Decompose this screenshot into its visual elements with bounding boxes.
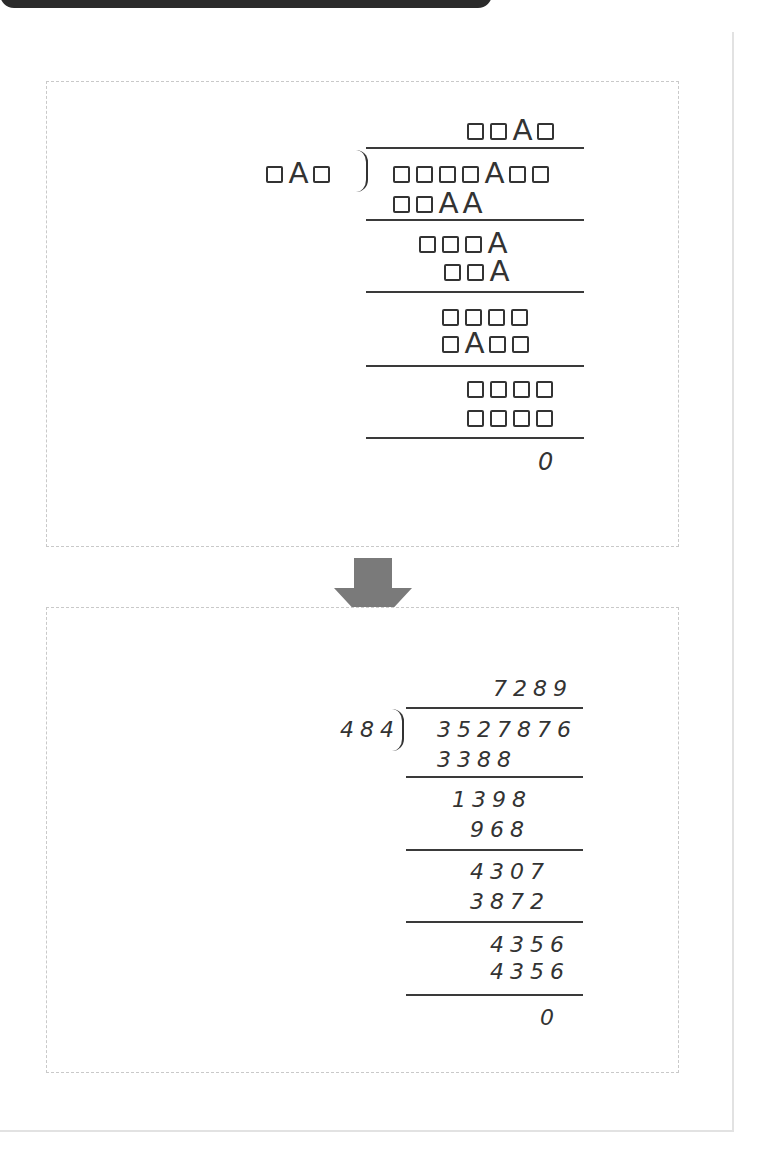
solution-divisor: 484 <box>340 719 400 741</box>
blank-digit-box <box>488 309 505 326</box>
solution-quotient: 7289 <box>493 678 573 700</box>
blank-digit-box <box>490 123 507 140</box>
blank-digit-box <box>416 196 433 213</box>
blank-digit-box <box>513 410 530 427</box>
blank-digit-box <box>467 123 484 140</box>
top-bar <box>0 0 492 8</box>
blank-digit-box <box>419 236 436 253</box>
step-rule <box>406 776 583 778</box>
digit-letter: A <box>487 230 510 258</box>
puzzle-remainder-3 <box>442 304 534 330</box>
step-rule <box>406 849 583 851</box>
blank-digit-box <box>393 196 410 213</box>
digit-letter: A <box>438 190 461 218</box>
blank-digit-box <box>462 166 479 183</box>
blank-digit-box <box>511 309 528 326</box>
quotient-rule <box>366 147 584 149</box>
solution-dividend: 3527876 <box>437 719 577 741</box>
puzzle-subtrahend-1: AA <box>393 190 487 218</box>
digit-letter: A <box>489 258 512 286</box>
digit-letter: A <box>484 160 507 188</box>
blank-digit-box <box>536 381 553 398</box>
blank-digit-box <box>489 336 506 353</box>
blank-digit-box <box>513 381 530 398</box>
step-rule <box>366 219 584 221</box>
blank-digit-box <box>442 309 459 326</box>
blank-digit-box <box>465 309 482 326</box>
solution-subtrahend-2: 968 <box>470 819 530 841</box>
digit-letter: A <box>462 190 485 218</box>
blank-digit-box <box>465 236 482 253</box>
puzzle-remainder-2: A <box>419 230 512 258</box>
blank-digit-box <box>442 336 459 353</box>
blank-digit-box <box>467 410 484 427</box>
division-bracket <box>392 709 404 751</box>
step-rule <box>406 994 583 996</box>
blank-digit-box <box>509 166 526 183</box>
quotient-rule <box>406 707 583 709</box>
step-rule <box>366 365 584 367</box>
puzzle-remainder-4 <box>467 376 559 402</box>
blank-digit-box <box>532 166 549 183</box>
puzzle-subtrahend-2: A <box>444 258 514 286</box>
solution-remainder-3: 4307 <box>470 861 550 883</box>
solution-panel <box>46 607 679 1073</box>
puzzle-dividend: A <box>393 160 555 188</box>
blank-digit-box <box>467 264 484 281</box>
digit-letter: A <box>288 160 311 188</box>
puzzle-panel <box>46 81 679 547</box>
step-rule <box>406 921 583 923</box>
blank-digit-box <box>439 166 456 183</box>
blank-digit-box <box>467 381 484 398</box>
solution-subtrahend-4: 4356 <box>490 961 570 983</box>
blank-digit-box <box>512 336 529 353</box>
blank-digit-box <box>442 236 459 253</box>
blank-digit-box <box>416 166 433 183</box>
blank-digit-box <box>444 264 461 281</box>
solution-remainder-2: 1398 <box>452 789 532 811</box>
puzzle-subtrahend-4 <box>467 405 559 431</box>
puzzle-divisor: A <box>266 160 336 188</box>
blank-digit-box <box>537 123 554 140</box>
puzzle-final-remainder: 0 <box>538 450 559 474</box>
blank-digit-box <box>536 410 553 427</box>
solution-final-remainder: 0 <box>540 1007 560 1029</box>
blank-digit-box <box>393 166 410 183</box>
digit-letter: A <box>512 117 535 145</box>
puzzle-quotient: A <box>467 117 560 145</box>
division-bracket <box>356 150 368 192</box>
step-rule <box>366 437 584 439</box>
solution-remainder-4: 4356 <box>490 934 570 956</box>
page-edge <box>732 32 734 1132</box>
step-rule <box>366 291 584 293</box>
blank-digit-box <box>490 410 507 427</box>
puzzle-subtrahend-3: A <box>442 330 535 358</box>
blank-digit-box <box>266 166 283 183</box>
blank-digit-box <box>313 166 330 183</box>
solution-subtrahend-3: 3872 <box>470 891 550 913</box>
digit-letter: A <box>464 330 487 358</box>
page-edge <box>0 1130 734 1132</box>
solution-subtrahend-1: 3388 <box>437 749 517 771</box>
blank-digit-box <box>490 381 507 398</box>
